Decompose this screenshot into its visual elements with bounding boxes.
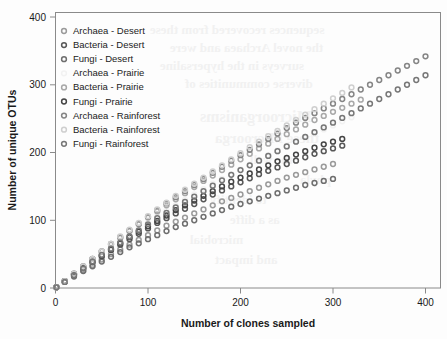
data-point bbox=[201, 207, 206, 212]
data-point bbox=[331, 146, 336, 151]
data-point bbox=[331, 162, 336, 167]
data-point bbox=[349, 111, 354, 116]
data-point bbox=[284, 175, 289, 180]
data-point bbox=[275, 179, 280, 184]
x-axis-title: Number of clones sampled bbox=[181, 317, 315, 329]
data-point bbox=[331, 177, 336, 182]
data-point bbox=[155, 233, 160, 238]
data-point bbox=[164, 223, 169, 228]
data-point bbox=[303, 170, 308, 175]
data-point bbox=[368, 101, 373, 106]
legend-marker-icon bbox=[62, 127, 67, 132]
legend-item-archaea-desert[interactable]: Archaea - Desert bbox=[62, 25, 146, 36]
legend-item-fungi-desert[interactable]: Fungi - Desert bbox=[62, 53, 134, 64]
data-point bbox=[405, 82, 410, 87]
data-point bbox=[257, 167, 262, 172]
legend-marker-icon bbox=[62, 29, 67, 34]
data-point bbox=[275, 191, 280, 196]
data-point bbox=[340, 97, 345, 102]
x-tick-label: 0 bbox=[53, 297, 59, 308]
data-point bbox=[173, 219, 178, 224]
data-point bbox=[284, 162, 289, 167]
data-point bbox=[266, 193, 271, 198]
data-point bbox=[229, 157, 234, 162]
data-point bbox=[62, 280, 67, 285]
data-point bbox=[247, 189, 252, 194]
legend-item-bacteria-prairie[interactable]: Bacteria - Prairie bbox=[62, 81, 144, 92]
data-point bbox=[294, 158, 299, 163]
data-point bbox=[303, 122, 308, 127]
data-point bbox=[247, 163, 252, 168]
data-point bbox=[423, 73, 428, 78]
data-point bbox=[275, 159, 280, 164]
data-point bbox=[220, 199, 225, 204]
data-point bbox=[294, 152, 299, 157]
legend-label: Archaea - Prairie bbox=[73, 67, 144, 78]
data-point bbox=[349, 101, 354, 106]
data-point bbox=[229, 179, 234, 184]
data-point bbox=[349, 85, 354, 90]
data-point bbox=[312, 167, 317, 172]
series-fungi-prairie bbox=[54, 137, 345, 290]
legend-label: Bacteria - Desert bbox=[73, 39, 145, 50]
data-point bbox=[312, 151, 317, 156]
data-point bbox=[423, 54, 428, 59]
data-point bbox=[340, 116, 345, 121]
data-point bbox=[72, 273, 77, 278]
legend-item-archaea-rainforest[interactable]: Archaea - Rainforest bbox=[62, 110, 161, 121]
data-point bbox=[210, 189, 215, 194]
legend-marker-icon bbox=[62, 57, 67, 62]
data-point bbox=[303, 155, 308, 160]
data-point bbox=[266, 163, 271, 168]
legend-marker-icon bbox=[62, 141, 67, 146]
data-point bbox=[275, 165, 280, 170]
legend-item-bacteria-rainforest[interactable]: Bacteria - Rainforest bbox=[62, 124, 160, 135]
data-point bbox=[257, 185, 262, 190]
x-axis: 0 100 200 300 400 Number of clones sampl… bbox=[53, 288, 435, 329]
data-point bbox=[173, 225, 178, 230]
data-point bbox=[395, 87, 400, 92]
legend-item-bacteria-desert[interactable]: Bacteria - Desert bbox=[62, 39, 145, 50]
data-point bbox=[386, 73, 391, 78]
data-point bbox=[275, 149, 280, 154]
data-point bbox=[257, 158, 262, 163]
data-point bbox=[312, 145, 317, 150]
data-point bbox=[358, 106, 363, 111]
data-point bbox=[164, 229, 169, 234]
data-point bbox=[405, 63, 410, 68]
chart-legend: Archaea - DesertBacteria - DesertFungi -… bbox=[62, 25, 161, 149]
legend-marker-icon bbox=[62, 43, 67, 48]
data-point bbox=[127, 227, 132, 232]
legend-label: Archaea - Desert bbox=[73, 25, 145, 36]
legend-marker-icon bbox=[62, 71, 67, 76]
legend-item-fungi-rainforest[interactable]: Fungi - Rainforest bbox=[62, 138, 149, 149]
data-point bbox=[303, 183, 308, 188]
legend-label: Fungi - Prairie bbox=[73, 96, 133, 107]
data-point bbox=[377, 78, 382, 83]
data-point bbox=[183, 215, 188, 220]
data-point bbox=[220, 208, 225, 213]
data-point bbox=[257, 196, 262, 201]
data-point bbox=[303, 135, 308, 140]
data-point bbox=[349, 92, 354, 97]
data-point bbox=[284, 144, 289, 149]
data-point bbox=[266, 153, 271, 158]
data-point bbox=[331, 109, 336, 114]
data-point bbox=[210, 211, 215, 216]
data-point bbox=[247, 171, 252, 176]
data-point bbox=[266, 182, 271, 187]
legend-marker-icon bbox=[62, 85, 67, 90]
y-axis: 0 100 200 300 400 Number of unique OTUs bbox=[6, 12, 56, 294]
legend-item-fungi-prairie[interactable]: Fungi - Prairie bbox=[62, 96, 133, 107]
data-point bbox=[414, 78, 419, 83]
data-point bbox=[238, 202, 243, 207]
data-point bbox=[201, 175, 206, 180]
data-point bbox=[312, 118, 317, 123]
y-tick-label: 100 bbox=[29, 215, 46, 226]
data-point bbox=[229, 172, 234, 177]
legend-label: Bacteria - Rainforest bbox=[73, 124, 160, 135]
data-point bbox=[294, 139, 299, 144]
data-point bbox=[118, 234, 123, 239]
legend-item-archaea-prairie[interactable]: Archaea - Prairie bbox=[62, 67, 145, 78]
data-point bbox=[331, 101, 336, 106]
